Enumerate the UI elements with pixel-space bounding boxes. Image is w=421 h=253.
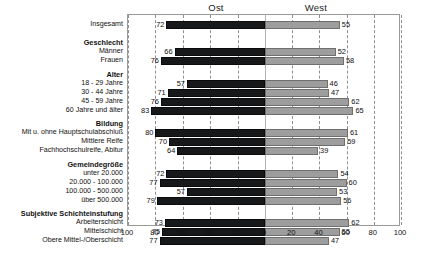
diverging-bar-chart: Ost West InsgesamtGeschlechtMännerFrauen… <box>0 0 421 253</box>
bar-west <box>265 80 328 88</box>
bar-ost <box>157 197 265 205</box>
bar-value-west: 55 <box>342 20 374 29</box>
bar-value-ost: 57 <box>153 79 185 88</box>
bar-ost <box>168 89 265 97</box>
bar-ost <box>155 129 265 137</box>
bar-value-ost: 77 <box>126 178 158 187</box>
axis-tick-label: 40 <box>303 228 333 238</box>
bar-value-west: 62 <box>351 218 383 227</box>
group-header-label: Geschlecht <box>84 39 123 47</box>
bar-west <box>265 170 338 178</box>
bar-value-west: 62 <box>351 97 383 106</box>
bar-value-ost: 73 <box>131 218 163 227</box>
axis-tick-label: 80 <box>139 228 169 238</box>
category-label: Fachhochschulreife, Abitur <box>39 146 123 154</box>
bar-ost <box>177 147 265 155</box>
bar-value-ost: 57 <box>153 187 185 196</box>
group-header-label: Alter <box>106 71 123 79</box>
bar-value-ost: 80 <box>121 128 153 137</box>
bar-value-ost: 76 <box>127 97 159 106</box>
chart-row: 7658 <box>128 57 399 65</box>
bar-value-west: 47 <box>331 88 363 97</box>
bar-ost <box>151 107 265 115</box>
group-header-label: Gemeindegröße <box>67 161 123 169</box>
bar-west <box>265 129 348 137</box>
bar-value-west: 52 <box>338 47 370 56</box>
category-label: unter 20.000 <box>83 169 123 177</box>
bar-value-west: 65 <box>355 106 387 115</box>
bar-value-west: 60 <box>349 178 381 187</box>
group-header-label: Subjektive Schichteinstufung <box>21 210 123 218</box>
bar-ost <box>165 219 265 227</box>
bar-value-ost: 71 <box>134 88 166 97</box>
bar-value-west: 59 <box>347 137 379 146</box>
axis-tick-label: 100 <box>112 228 142 238</box>
category-label: 30 - 44 Jahre <box>81 88 123 96</box>
bar-west <box>265 147 318 155</box>
bar-value-ost: 66 <box>141 47 173 56</box>
category-label: Arbeiterschicht <box>76 218 123 226</box>
bar-west <box>265 21 340 29</box>
chart-row: 7956 <box>128 197 399 205</box>
bar-value-ost: 70 <box>135 137 167 146</box>
plot-area: 7255665276585746714776628365806170596439… <box>127 14 400 226</box>
bar-west <box>265 188 337 196</box>
bar-value-west: 39 <box>320 146 352 155</box>
x-axis: 10080604020020406080100 <box>127 228 400 242</box>
category-label: 45 - 59 Jahre <box>81 97 123 105</box>
series-header-ost: Ost <box>186 2 246 14</box>
axis-tick-label: 60 <box>167 228 197 238</box>
bar-west <box>265 57 344 65</box>
bar-ost <box>166 170 265 178</box>
axis-tick-label: 80 <box>358 228 388 238</box>
axis-tick-label: 0 <box>249 228 279 238</box>
category-label: Mittlere Reife <box>81 137 123 145</box>
category-label: über 500.000 <box>81 196 123 204</box>
bar-value-west: 56 <box>343 196 375 205</box>
bar-ost <box>161 57 265 65</box>
bar-value-west: 54 <box>340 169 372 178</box>
bar-value-ost: 79 <box>123 196 155 205</box>
bar-ost <box>175 48 265 56</box>
bar-west <box>265 98 349 106</box>
category-label: 20.000 - 100.000 <box>69 178 123 186</box>
bar-ost <box>187 80 265 88</box>
axis-tick-label: 40 <box>194 228 224 238</box>
bar-value-west: 58 <box>346 56 378 65</box>
bar-value-ost: 72 <box>132 169 164 178</box>
category-label: Obere Mittel-/Oberschicht <box>42 236 123 244</box>
category-label: 60 Jahre und älter <box>66 106 123 114</box>
chart-row: 6439 <box>128 147 399 155</box>
category-label: Frauen <box>101 56 123 64</box>
bar-ost <box>187 188 265 196</box>
bar-west <box>265 48 336 56</box>
axis-tick-label: 20 <box>222 228 252 238</box>
axis-tick-label: 60 <box>331 228 361 238</box>
bar-west <box>265 107 353 115</box>
category-label-column: InsgesamtGeschlechtMännerFrauenAlter18 -… <box>0 14 125 226</box>
bar-value-ost: 76 <box>127 56 159 65</box>
category-label: 18 - 29 Jahre <box>81 79 123 87</box>
bar-ost <box>169 138 265 146</box>
chart-row: 8365 <box>128 107 399 115</box>
bar-value-west: 46 <box>330 79 362 88</box>
bar-value-ost: 72 <box>132 20 164 29</box>
chart-row: 7255 <box>128 21 399 29</box>
bar-west <box>265 219 349 227</box>
bar-west <box>265 89 329 97</box>
category-label: Insgesamt <box>90 20 123 28</box>
bar-value-ost: 83 <box>117 106 149 115</box>
bar-ost <box>166 21 265 29</box>
bar-ost <box>161 98 265 106</box>
bar-west <box>265 179 347 187</box>
gridline <box>401 15 402 225</box>
plot-inner: 7255665276585746714776628365806170596439… <box>128 15 399 225</box>
axis-tick-label: 100 <box>385 228 415 238</box>
axis-tick-label: 20 <box>276 228 306 238</box>
bar-west <box>265 197 341 205</box>
bar-value-west: 53 <box>339 187 371 196</box>
series-header-west: West <box>286 2 346 14</box>
category-label: Mit u. ohne Hauptschulabschluß <box>22 128 123 136</box>
bar-value-west: 61 <box>350 128 382 137</box>
category-label: Männer <box>99 47 123 55</box>
